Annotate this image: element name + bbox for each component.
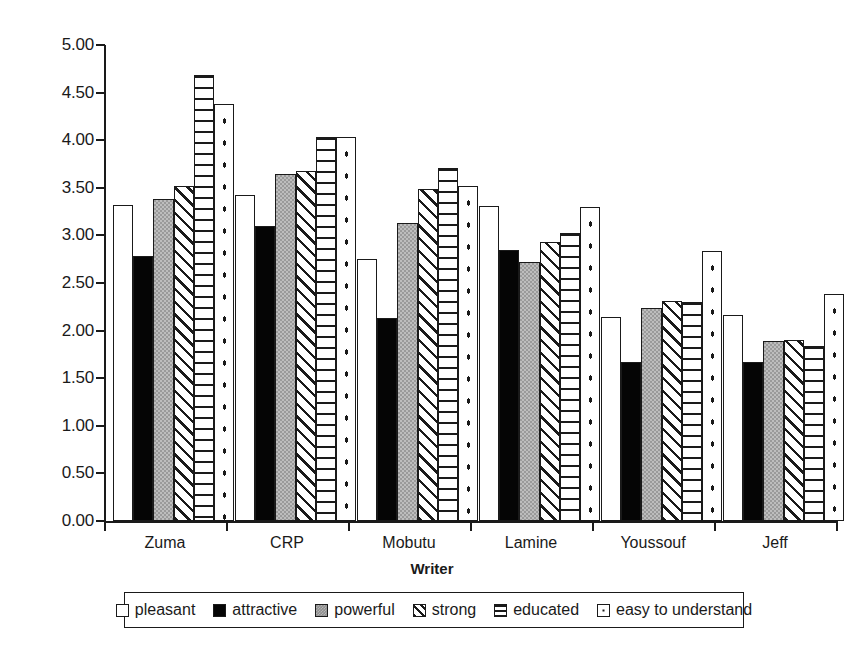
bar-jeff-attractive xyxy=(743,362,763,521)
bar-zuma-strong xyxy=(174,186,194,521)
bar-mobutu-pleasant xyxy=(357,259,377,521)
x-axis-tick xyxy=(104,521,106,531)
bar-jeff-easy-to-understand xyxy=(824,294,844,521)
bar-mobutu-strong xyxy=(418,189,438,521)
bar-zuma-attractive xyxy=(133,256,153,521)
bar-youssouf-easy-to-understand xyxy=(702,251,722,521)
x-axis-tick xyxy=(592,521,594,531)
x-axis-tick xyxy=(470,521,472,531)
legend-item-powerful[interactable]: powerful xyxy=(315,602,394,618)
x-axis-tick xyxy=(348,521,350,531)
legend-label: attractive xyxy=(232,602,297,618)
bar-zuma-pleasant xyxy=(113,205,133,521)
legend-swatch-icon xyxy=(494,604,507,617)
bar-crp-easy-to-understand xyxy=(336,137,356,521)
legend-item-pleasant[interactable]: pleasant xyxy=(116,602,196,618)
legend-swatch-icon xyxy=(413,604,426,617)
legend-swatch-icon xyxy=(213,604,226,617)
legend-item-attractive[interactable]: attractive xyxy=(213,602,297,618)
bar-chart: 0.000.501.001.502.002.503.003.504.004.50… xyxy=(0,0,864,659)
bar-mobutu-educated xyxy=(438,168,458,521)
legend-swatch-icon xyxy=(597,604,610,617)
legend-item-strong[interactable]: strong xyxy=(413,602,476,618)
bar-youssouf-attractive xyxy=(621,362,641,521)
x-axis-category-label: Jeff xyxy=(714,534,836,552)
x-axis-title: Writer xyxy=(0,560,864,577)
bar-crp-educated xyxy=(316,137,336,521)
legend-label: easy to understand xyxy=(616,602,752,618)
x-axis-category-label: CRP xyxy=(226,534,348,552)
bar-zuma-powerful xyxy=(153,199,173,521)
bar-crp-powerful xyxy=(275,174,295,521)
legend-label: pleasant xyxy=(135,602,196,618)
bar-mobutu-powerful xyxy=(397,223,417,521)
bar-mobutu-easy-to-understand xyxy=(458,186,478,521)
bar-jeff-educated xyxy=(804,346,824,521)
bar-lamine-pleasant xyxy=(479,206,499,521)
bar-jeff-strong xyxy=(784,340,804,521)
legend-item-easy-to-understand[interactable]: easy to understand xyxy=(597,602,752,618)
x-axis-category-label: Zuma xyxy=(104,534,226,552)
bar-lamine-powerful xyxy=(519,262,539,521)
bar-mobutu-attractive xyxy=(377,318,397,521)
legend-swatch-icon xyxy=(315,604,328,617)
bar-zuma-educated xyxy=(194,75,214,521)
chart-legend: pleasantattractivepowerfulstrongeducated… xyxy=(124,592,744,628)
bar-zuma-easy-to-understand xyxy=(214,104,234,521)
bar-lamine-attractive xyxy=(499,250,519,521)
bar-youssouf-educated xyxy=(682,302,702,521)
x-axis-end-tick xyxy=(836,521,838,531)
x-axis-category-label: Lamine xyxy=(470,534,592,552)
bar-crp-strong xyxy=(296,171,316,521)
bar-youssouf-pleasant xyxy=(601,317,621,521)
bar-youssouf-strong xyxy=(662,301,682,521)
x-axis-category-label: Youssouf xyxy=(592,534,714,552)
bar-jeff-powerful xyxy=(763,341,783,521)
legend-label: powerful xyxy=(334,602,394,618)
x-axis-tick xyxy=(226,521,228,531)
x-axis-tick xyxy=(714,521,716,531)
x-axis-category-label: Mobutu xyxy=(348,534,470,552)
bar-lamine-strong xyxy=(540,242,560,521)
legend-item-educated[interactable]: educated xyxy=(494,602,579,618)
bar-crp-pleasant xyxy=(235,195,255,521)
legend-label: educated xyxy=(513,602,579,618)
bar-lamine-easy-to-understand xyxy=(580,207,600,521)
bar-lamine-educated xyxy=(560,233,580,521)
bar-crp-attractive xyxy=(255,226,275,521)
bar-jeff-pleasant xyxy=(723,315,743,521)
bar-youssouf-powerful xyxy=(641,308,661,521)
legend-label: strong xyxy=(432,602,476,618)
legend-swatch-icon xyxy=(116,604,129,617)
